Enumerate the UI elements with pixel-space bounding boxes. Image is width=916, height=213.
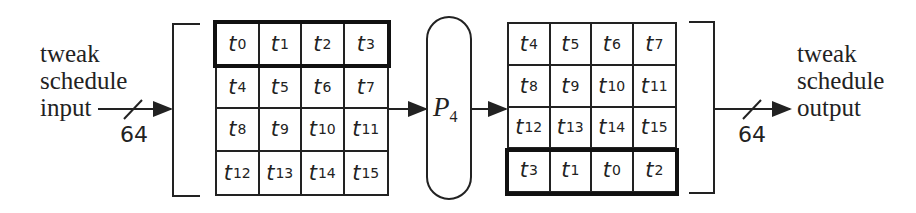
grid-cell: t2 <box>634 149 676 191</box>
output-label-line: schedule <box>797 67 884 94</box>
cell-symbol: t <box>603 32 611 56</box>
input-label-line: tweak <box>40 40 127 67</box>
cell-index: 14 <box>607 119 625 135</box>
cell-index: 5 <box>570 36 579 52</box>
grid-cell: t1 <box>551 149 593 191</box>
cell-index: 12 <box>233 165 251 181</box>
cell-index: 6 <box>322 79 331 95</box>
cell-index: 15 <box>361 165 379 181</box>
cell-symbol: t <box>271 32 279 56</box>
cell-index: 7 <box>366 79 375 95</box>
grid-cell: t13 <box>260 152 303 195</box>
grid-cell: t5 <box>260 67 303 110</box>
grid-cell: t2 <box>302 24 345 67</box>
grid-cell: t12 <box>509 108 551 150</box>
grid-cell: t11 <box>345 109 388 152</box>
grid-cell: t8 <box>217 109 260 152</box>
cell-symbol: t <box>357 32 365 56</box>
output-label-line: tweak <box>797 40 884 67</box>
cell-symbol: t <box>561 32 569 56</box>
diagram-connectors <box>0 0 916 213</box>
grid-cell: t0 <box>592 149 634 191</box>
cell-index: 2 <box>322 36 331 52</box>
cell-index: 6 <box>612 36 621 52</box>
cell-symbol: t <box>603 158 611 182</box>
cell-symbol: t <box>313 75 321 99</box>
grid-cell: t14 <box>302 152 345 195</box>
grid-cell: t7 <box>345 67 388 110</box>
cell-index: 9 <box>280 121 289 137</box>
grid-cell: t3 <box>509 149 551 191</box>
grid-cell: t7 <box>634 24 676 66</box>
cell-index: 13 <box>566 119 584 135</box>
cell-index: 4 <box>237 79 246 95</box>
grid-cell: t0 <box>217 24 260 67</box>
cell-index: 1 <box>570 162 579 178</box>
cell-symbol: t <box>357 75 365 99</box>
grid-cell: t8 <box>509 66 551 108</box>
grid-cell: t15 <box>345 152 388 195</box>
cell-symbol: t <box>520 158 528 182</box>
cell-index: 8 <box>529 78 538 94</box>
cell-symbol: t <box>228 117 236 141</box>
cell-index: 0 <box>237 36 246 52</box>
cell-symbol: t <box>266 161 274 185</box>
output-bit-width: 64 <box>738 122 766 147</box>
grid-cell: t15 <box>634 108 676 150</box>
input-label-line: schedule <box>40 67 127 94</box>
cell-symbol: t <box>309 161 317 185</box>
cell-symbol: t <box>645 158 653 182</box>
grid-cell: t4 <box>509 24 551 66</box>
cell-symbol: t <box>598 115 606 139</box>
cell-symbol: t <box>561 158 569 182</box>
grid-cell: t5 <box>551 24 593 66</box>
left-state-grid: t0t1t2t3t4t5t6t7t8t9t10t11t12t13t14t15 <box>215 22 389 196</box>
cell-symbol: t <box>228 75 236 99</box>
cell-index: 10 <box>607 78 625 94</box>
grid-cell: t10 <box>302 109 345 152</box>
cell-index: 1 <box>280 36 289 52</box>
cell-index: 2 <box>654 162 663 178</box>
grid-cell: t13 <box>551 108 593 150</box>
cell-index: 0 <box>612 162 621 178</box>
left-bracket <box>173 24 200 196</box>
grid-cell: t1 <box>260 24 303 67</box>
grid-cell: t9 <box>551 66 593 108</box>
cell-symbol: t <box>271 75 279 99</box>
cell-symbol: t <box>224 161 232 185</box>
cell-symbol: t <box>520 74 528 98</box>
cell-index: 8 <box>237 121 246 137</box>
cell-index: 7 <box>654 36 663 52</box>
permutation-label: P4 <box>433 92 458 126</box>
cell-symbol: t <box>352 117 360 141</box>
output-label: tweak schedule output <box>797 40 884 121</box>
cell-index: 13 <box>275 165 293 181</box>
permutation-symbol: P <box>433 92 450 122</box>
cell-index: 4 <box>529 36 538 52</box>
cell-symbol: t <box>598 74 606 98</box>
grid-cell: t3 <box>345 24 388 67</box>
grid-cell: t11 <box>634 66 676 108</box>
cell-index: 11 <box>361 121 379 137</box>
cell-symbol: t <box>309 117 317 141</box>
grid-cell: t6 <box>592 24 634 66</box>
cell-index: 3 <box>529 162 538 178</box>
input-bit-width: 64 <box>120 122 148 147</box>
cell-symbol: t <box>271 117 279 141</box>
input-label-line: input <box>40 94 127 121</box>
cell-symbol: t <box>641 115 649 139</box>
grid-cell: t12 <box>217 152 260 195</box>
cell-symbol: t <box>228 32 236 56</box>
cell-symbol: t <box>557 115 565 139</box>
cell-symbol: t <box>313 32 321 56</box>
cell-index: 14 <box>318 165 336 181</box>
permutation-subscript: 4 <box>450 108 458 125</box>
cell-symbol: t <box>352 161 360 185</box>
cell-symbol: t <box>515 115 523 139</box>
grid-cell: t9 <box>260 109 303 152</box>
output-label-line: output <box>797 94 884 121</box>
right-state-grid: t4t5t6t7t8t9t10t11t12t13t14t15t3t1t0t2 <box>507 22 677 193</box>
grid-cell: t6 <box>302 67 345 110</box>
cell-symbol: t <box>641 74 649 98</box>
cell-index: 9 <box>570 78 579 94</box>
